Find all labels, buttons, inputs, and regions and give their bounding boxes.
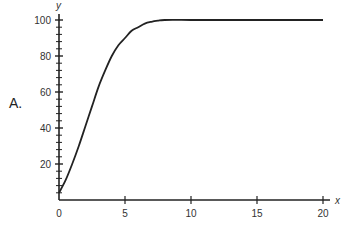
axes: [59, 14, 330, 200]
y-tick-label: 40: [40, 123, 52, 134]
line-chart: xy2040608010005101520: [0, 0, 347, 226]
x-tick-label: 5: [122, 208, 128, 219]
ticks: [55, 20, 323, 204]
y-tick-label: 100: [34, 15, 51, 26]
tick-labels: xy2040608010005101520: [34, 0, 341, 219]
y-tick-label: 80: [40, 51, 52, 62]
x-tick-label: 0: [56, 208, 62, 219]
y-tick-label: 20: [40, 159, 52, 170]
x-tick-label: 10: [185, 208, 197, 219]
y-tick-label: 60: [40, 87, 52, 98]
series-line: [59, 20, 323, 193]
x-axis-label: x: [334, 195, 341, 206]
x-tick-label: 15: [251, 208, 263, 219]
x-tick-label: 20: [317, 208, 329, 219]
y-axis-label: y: [55, 0, 62, 11]
data-series: [59, 20, 323, 193]
